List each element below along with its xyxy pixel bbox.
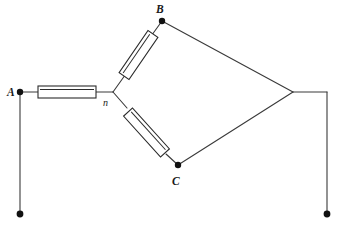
node-label-b: B bbox=[155, 3, 164, 15]
resistor-nb bbox=[119, 31, 158, 80]
node-dot-c bbox=[175, 162, 181, 168]
node-dot-a bbox=[17, 89, 23, 95]
resistor-an-body bbox=[38, 86, 96, 98]
wire-c-to-right-vertex bbox=[178, 92, 293, 165]
resistor-nc bbox=[124, 108, 170, 157]
node-label-n: n bbox=[103, 97, 108, 108]
node-dot-b bbox=[159, 18, 165, 24]
resistor-nb-body bbox=[119, 31, 158, 80]
terminal-dot-left bbox=[17, 211, 24, 218]
circuit-schematic-canvas: A B C n bbox=[0, 0, 339, 228]
resistor-an bbox=[38, 86, 96, 98]
terminal-dot-right bbox=[324, 211, 331, 218]
wire-b-to-right-vertex bbox=[162, 21, 293, 92]
node-dot-group bbox=[17, 18, 331, 218]
node-label-a: A bbox=[6, 86, 15, 98]
circuit-diagram: A B C n bbox=[0, 0, 339, 228]
wire-n-to-resistor-nc bbox=[113, 92, 127, 108]
node-label-c: C bbox=[172, 175, 180, 187]
resistor-nc-body bbox=[124, 108, 170, 157]
